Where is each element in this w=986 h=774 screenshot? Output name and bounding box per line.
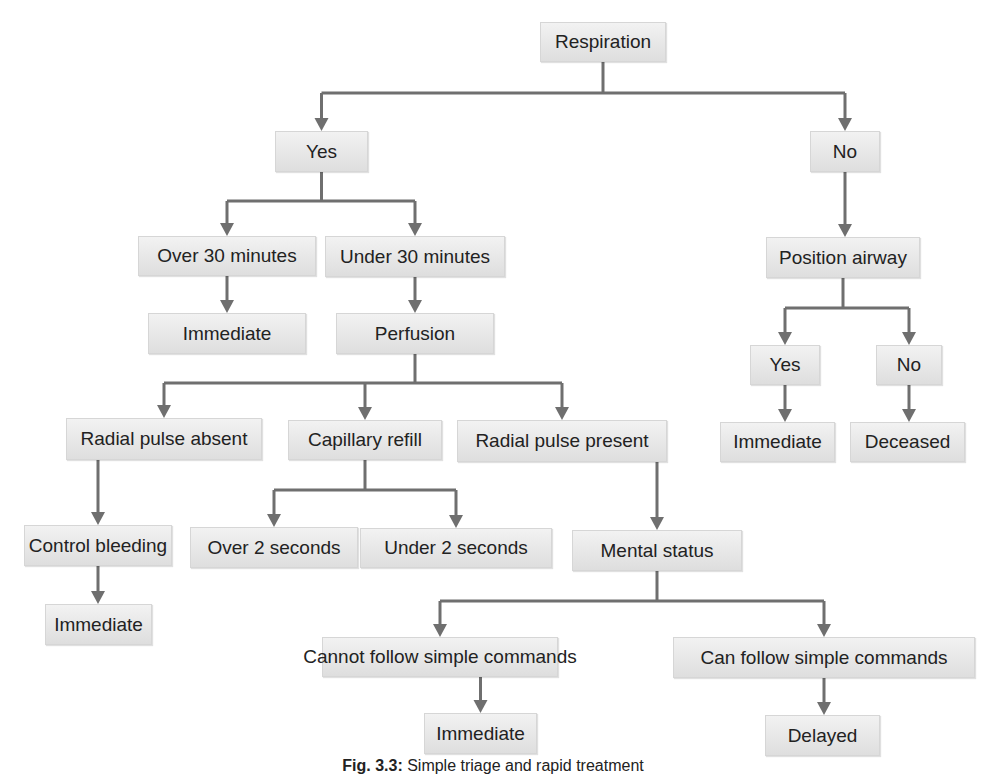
node-radial-present: Radial pulse present: [457, 420, 667, 462]
node-immediate1: Immediate: [148, 313, 306, 354]
node-mental-status: Mental status: [572, 530, 742, 571]
node-position-airway: Position airway: [766, 237, 920, 278]
node-delayed: Delayed: [765, 715, 880, 756]
node-over2: Over 2 seconds: [190, 527, 358, 568]
node-no2: No: [876, 345, 942, 385]
node-immediate3: Immediate: [45, 604, 152, 645]
node-control-bleeding: Control bleeding: [24, 525, 172, 566]
node-immediate2: Immediate: [720, 422, 835, 462]
node-respiration: Respiration: [540, 22, 666, 62]
node-capillary-refill: Capillary refill: [288, 420, 442, 460]
node-under2: Under 2 seconds: [360, 528, 552, 568]
node-immediate4: Immediate: [424, 713, 537, 754]
node-perfusion: Perfusion: [336, 313, 494, 354]
node-no1: No: [810, 131, 880, 172]
node-yes1: Yes: [275, 131, 368, 172]
node-cannot-follow: Cannot follow simple commands: [322, 637, 558, 677]
node-yes2: Yes: [750, 345, 820, 385]
node-can-follow: Can follow simple commands: [673, 637, 975, 678]
figure-label: Fig. 3.3:: [342, 757, 402, 774]
figure-caption: Fig. 3.3: Simple triage and rapid treatm…: [0, 757, 986, 774]
node-deceased: Deceased: [850, 422, 965, 462]
triage-flowchart: RespirationYesNoOver 30 minutesUnder 30 …: [0, 0, 986, 774]
node-radial-absent: Radial pulse absent: [66, 418, 262, 460]
node-under30: Under 30 minutes: [325, 236, 505, 277]
figure-caption-text: Simple triage and rapid treatment: [407, 757, 644, 774]
node-over30: Over 30 minutes: [138, 236, 316, 276]
